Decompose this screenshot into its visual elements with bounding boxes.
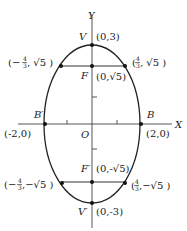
point-lower-right (123, 181, 127, 185)
V-prime-coords: (0,-3) (96, 206, 123, 217)
V-prime-label: V′ (78, 206, 88, 217)
origin-label: O (81, 129, 89, 140)
F-label: F (80, 70, 89, 81)
ellipse-diagram: Y X O V (0,3) F (0,√5) B′ (-2,0) B (2,0)… (0, 0, 187, 231)
svg-text:(−: (− (8, 57, 20, 68)
point-F (90, 64, 94, 68)
lower-right-endpoint-label: ( 4 3 ,−√5 ) (131, 178, 170, 192)
V-coords: (0,3) (96, 31, 120, 42)
B-coords: (2,0) (146, 128, 170, 139)
F-prime-coords: (0,-√5) (96, 163, 130, 174)
point-upper-left (59, 64, 63, 68)
point-B (139, 122, 143, 126)
svg-text:,−√5 ): ,−√5 ) (139, 180, 170, 191)
point-V-prime (90, 201, 94, 205)
point-B-prime (43, 122, 47, 126)
lower-left-endpoint-label: (− 4 3 ,−√5 ) (4, 177, 53, 191)
x-axis-label: X (174, 119, 183, 130)
F-coords: (0,√5) (96, 71, 126, 82)
point-upper-right (123, 64, 127, 68)
F-prime-label: F′ (80, 163, 91, 174)
upper-right-endpoint-label: ( 4 3 , √5 ) (132, 55, 166, 69)
B-label: B (146, 109, 154, 120)
B-prime-coords: (-2,0) (4, 128, 31, 139)
upper-left-endpoint-label: (− 4 3 , √5 ) (8, 55, 53, 69)
V-label: V (79, 31, 88, 42)
point-lower-left (60, 181, 64, 185)
svg-text:,−√5 ): ,−√5 ) (22, 179, 53, 190)
svg-text:(−: (− (4, 179, 16, 190)
point-F-prime (90, 180, 94, 184)
point-V (90, 43, 94, 47)
B-prime-label: B′ (33, 109, 44, 120)
y-axis-label: Y (88, 10, 96, 21)
svg-text:, √5 ): , √5 ) (140, 57, 166, 68)
svg-text:, √5 ): , √5 ) (27, 57, 53, 68)
